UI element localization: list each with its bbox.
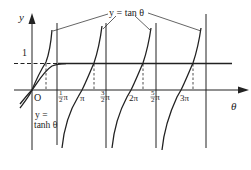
- svg-text:2: 2: [101, 96, 105, 104]
- y-axis-arrow-icon: [29, 13, 36, 24]
- svg-text:π: π: [156, 92, 161, 102]
- tick-three-half-pi: 3 2 π: [101, 89, 111, 104]
- tan-branch-1: [62, 26, 102, 148]
- tick-five-half-pi: 5 2 π: [151, 89, 161, 104]
- y-axis-label: y: [18, 11, 24, 23]
- tan-branch-2: [112, 28, 151, 148]
- origin-label: O: [34, 92, 41, 103]
- tanh-label-line2: tanh θ: [34, 120, 58, 130]
- tan-branch-3: [162, 28, 201, 150]
- tan-asymptotes: [57, 14, 206, 148]
- svg-text:2: 2: [151, 96, 155, 104]
- tan-label: y = tan θ: [109, 7, 144, 18]
- svg-text:π: π: [106, 92, 111, 102]
- one-label: 1: [22, 47, 27, 58]
- theta-axis-arrow-icon: [238, 87, 249, 94]
- svg-text:2: 2: [59, 96, 63, 104]
- tick-half-pi: 1 2 π: [59, 89, 69, 104]
- tick-pi: π: [80, 93, 85, 103]
- tick-two-pi: 2π: [129, 93, 139, 103]
- intersection-drop-lines: [46, 64, 193, 90]
- tan-tanh-diagram: y θ O 1 y = tan θ y = tanh θ 1 2 π π 3 2…: [0, 0, 251, 170]
- svg-text:π: π: [64, 92, 69, 102]
- tan-curves: [20, 26, 201, 150]
- theta-axis-label: θ: [231, 100, 237, 112]
- tick-three-pi: 3π: [180, 93, 190, 103]
- tanh-label-line1: y =: [35, 110, 47, 120]
